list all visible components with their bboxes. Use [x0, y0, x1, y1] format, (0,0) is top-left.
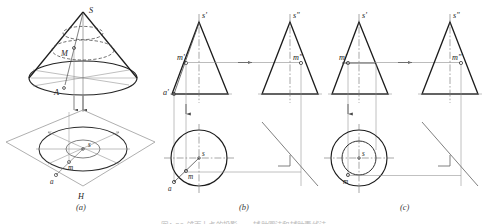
label-side-point-m: m": [293, 53, 303, 62]
miter-line-45-c: [422, 122, 478, 186]
h-plane-outline: [6, 110, 155, 186]
label-side-apex: s": [293, 11, 300, 20]
caption-b: (b): [239, 202, 249, 212]
label-side-point-m-c: m": [452, 53, 462, 62]
panel-c-three-view: s' s" m' m" s m: [324, 11, 482, 193]
technical-drawing-canvas: S M A s m a H: [0, 0, 487, 224]
caption-c: (c): [400, 202, 409, 212]
label-front-apex-c: s': [362, 11, 367, 20]
label-h-point-a: a: [50, 178, 54, 186]
miter-line-45: [262, 122, 318, 186]
label-apex-S: S: [89, 6, 93, 15]
figure-root: S M A s m a H: [0, 0, 487, 224]
point-a-marker: [63, 87, 66, 90]
label-top-point-a: a: [168, 185, 172, 193]
panel-a-pictorial-view: S M A s m a H: [6, 6, 155, 201]
label-point-A: A: [53, 88, 60, 97]
panel-b-three-view: s' s" m' m" a' s m a: [163, 11, 322, 193]
label-h-point-m: m: [68, 164, 73, 172]
label-top-center-s: s: [202, 150, 205, 158]
label-h-center-s: s: [88, 141, 91, 149]
panel-captions: (a) (b) (c): [0, 202, 487, 214]
miter-right-angle-mark-c: [438, 155, 450, 166]
label-top-point-m-c: m: [343, 178, 348, 186]
caption-a: (a): [76, 202, 86, 212]
label-top-point-m: m: [188, 173, 193, 181]
label-front-point-m: m': [177, 53, 185, 62]
label-point-M: M: [60, 49, 69, 58]
top-view-radius-sa: [174, 158, 199, 182]
label-front-point-a: a': [163, 88, 169, 97]
label-side-apex-c: s": [453, 11, 460, 20]
label-plane-H: H: [77, 192, 85, 201]
label-front-apex: s': [202, 11, 207, 20]
miter-right-angle-mark: [278, 155, 290, 166]
label-top-center-s-c: s: [362, 150, 365, 158]
figure-title-note: 图4-20 锥面上点的投影——辅助圆法和辅助素线法: [0, 219, 487, 224]
label-front-point-m-c: m': [339, 53, 347, 62]
